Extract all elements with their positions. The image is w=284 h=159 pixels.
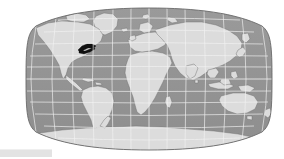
world-locator-map	[0, 0, 284, 159]
status-bar-sliver	[0, 149, 52, 157]
world-map-canvas[interactable]	[0, 0, 284, 159]
land-sri-lanka	[195, 80, 198, 83]
